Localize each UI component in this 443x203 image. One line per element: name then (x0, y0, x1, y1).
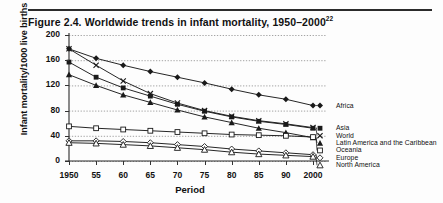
x-axis-tick-label: 80 (217, 170, 247, 180)
legend-leader-line (316, 128, 317, 136)
data-point-open-square (256, 133, 261, 138)
x-axis-tick-label: 90 (271, 170, 301, 180)
figure-title-superscript: 22 (326, 15, 333, 22)
legend-marker-africa (317, 103, 323, 109)
data-point-filled-diamond (202, 80, 208, 86)
data-point-filled-square (94, 75, 99, 80)
legend-label-asia: Asia (336, 124, 349, 131)
legend-marker-asia (318, 126, 323, 131)
x-axis-tick-label: 55 (81, 170, 111, 180)
data-point-filled-square (148, 94, 153, 99)
series-line-oceania (69, 126, 313, 137)
legend-label-latin-america-and-the-caribbean: Latin America and the Caribbean (336, 139, 437, 146)
legend-marker-world (317, 133, 322, 138)
data-point-open-square (283, 133, 288, 138)
data-point-open-square (175, 130, 180, 135)
data-point-open-square (311, 135, 316, 140)
x-axis-tick-mark (313, 161, 314, 165)
x-axis-tick-mark (123, 161, 124, 165)
data-point-filled-diamond (147, 69, 153, 75)
data-point-open-square (121, 127, 126, 132)
y-axis-tick-mark (65, 35, 69, 36)
legend-label-europe: Europe (336, 154, 358, 161)
data-point-cross-x (121, 78, 126, 83)
y-axis-tick-mark (65, 111, 69, 112)
y-axis-tick-label: 120 (34, 79, 60, 89)
x-axis-tick-label: 2000 (298, 170, 328, 180)
legend-label-world: World (336, 132, 354, 139)
x-axis-tick-mark (205, 161, 206, 165)
x-axis-tick-label: 70 (162, 170, 192, 180)
x-axis-tick-label: 65 (135, 170, 165, 180)
x-axis-tick-label: 85 (244, 170, 274, 180)
data-point-filled-diamond (120, 62, 126, 68)
data-point-filled-square (121, 86, 126, 91)
x-axis-tick-mark (96, 161, 97, 165)
title-rule (28, 9, 432, 11)
y-axis-tick-label: 80 (34, 105, 60, 115)
series-line-asia (69, 62, 313, 128)
data-point-open-square (229, 132, 234, 137)
x-axis-tick-mark (177, 161, 178, 165)
x-axis-tick-mark (232, 161, 233, 165)
data-point-filled-triangle (93, 82, 99, 88)
chart-plot-area: Infant mortality/1000 live births Period… (0, 24, 443, 203)
legend-label-north-america: North America (336, 161, 380, 168)
y-axis-tick-mark (65, 85, 69, 86)
x-axis-tick-label: 60 (108, 170, 138, 180)
data-point-open-square (94, 126, 99, 131)
series-line-africa (69, 49, 313, 106)
y-axis-tick-label: 160 (34, 54, 60, 64)
legend-marker-north-america (317, 162, 323, 168)
legend-label-oceania: Oceania (336, 146, 362, 153)
x-axis-tick-mark (259, 161, 260, 165)
legend-marker-europe (317, 155, 323, 161)
data-point-filled-diamond (283, 96, 289, 102)
x-axis-title: Period (105, 184, 275, 195)
y-axis-tick-label: 200 (34, 29, 60, 39)
data-point-open-square (67, 124, 72, 129)
x-axis-tick-label: 1950 (54, 170, 84, 180)
data-point-open-square (202, 131, 207, 136)
legend-label-africa: Africa (336, 102, 354, 109)
legend-leader-line (316, 137, 317, 150)
y-axis-tick-label: 40 (34, 130, 60, 140)
data-point-filled-triangle (66, 72, 72, 78)
data-point-filled-diamond (310, 103, 316, 109)
data-point-filled-diamond (174, 74, 180, 80)
series-line-north-america (69, 143, 313, 157)
x-axis-tick-mark (150, 161, 151, 165)
figure-container: Figure 2.4. Worldwide trends in infant m… (0, 0, 443, 203)
x-axis-tick-mark (69, 161, 70, 165)
y-axis-tick-mark (65, 136, 69, 137)
y-axis-tick-label: 0 (34, 155, 60, 165)
x-axis-tick-mark (286, 161, 287, 165)
x-axis-tick-label: 75 (190, 170, 220, 180)
data-point-filled-triangle (120, 92, 126, 98)
legend-marker-oceania (318, 148, 323, 153)
data-point-filled-diamond (229, 86, 235, 92)
data-point-filled-diamond (256, 92, 262, 98)
legend-marker-latin-america-and-the-caribbean (317, 140, 323, 146)
data-point-cross-x (94, 63, 99, 68)
series-line-europe (69, 141, 313, 155)
y-axis-tick-mark (65, 60, 69, 61)
data-point-open-square (148, 128, 153, 133)
